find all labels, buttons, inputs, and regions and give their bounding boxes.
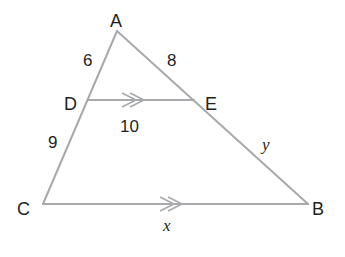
vertex-label-c: C — [17, 199, 30, 219]
vertex-label-d: D — [64, 94, 77, 114]
vertex-label-e: E — [205, 94, 217, 114]
triangle-diagram: A B C D E 6 8 10 9 y x — [0, 0, 345, 257]
vertex-label-a: A — [110, 11, 122, 31]
length-label-eb: y — [260, 135, 270, 154]
length-label-ae: 8 — [167, 51, 176, 70]
side-ab — [117, 31, 308, 204]
side-ac — [43, 31, 117, 204]
length-label-ad: 6 — [83, 51, 92, 70]
length-label-de: 10 — [120, 117, 139, 136]
length-label-dc: 9 — [48, 133, 57, 152]
length-label-cb: x — [162, 216, 171, 235]
vertex-label-b: B — [312, 199, 324, 219]
